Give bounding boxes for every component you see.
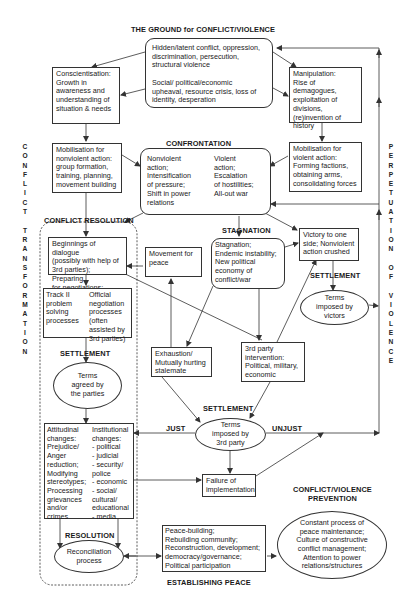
header-settlement-left: SETTLEMENT [60, 349, 110, 358]
node-third-party-intervention: 3rd party intervention: Political, milit… [241, 342, 305, 382]
node-attitudinal: Attitudinal changes: Prejudice/ Anger re… [47, 426, 86, 522]
node-peace-building: Peace-building; Rebuilding community; Re… [162, 525, 266, 572]
node-ground: Hidden/latent conflict, oppression, disc… [145, 38, 273, 108]
header-settlement-center: SETTLEMENT [203, 404, 253, 413]
node-manipulation: Manipulation: Rise of demagogues, exploi… [289, 67, 362, 123]
header-establishing-peace: ESTABLISHING PEACE [167, 578, 251, 587]
header-stagnation: STAGNATION [222, 226, 271, 235]
node-ground-top: Hidden/latent conflict, oppression, disc… [152, 44, 260, 70]
header-prevention: CONFLICT/VIOLENCE PREVENTION [293, 486, 372, 503]
label-unjust: UNJUST [272, 424, 302, 433]
node-victory: Victory to one side; Nonviolent action c… [299, 228, 359, 261]
node-failure-of-implementation: Failure of implementation [202, 474, 256, 497]
node-mobilisation-violent: Mobilisation for violent action: Forming… [289, 142, 362, 192]
node-movement-for-peace: Movement for peace [145, 247, 202, 277]
node-institutional: Institutional changes: - political - jud… [92, 426, 129, 522]
node-terms-agreed: Terms agreed by the parties [53, 362, 122, 409]
header-settlement-right: SETTLEMENT [310, 271, 360, 280]
node-confrontation-nonviolent: Nonviolent action; Intensification of pr… [147, 155, 191, 207]
side-label-conflict-transformation: C O N F L I C T T R A N S F O R M A T I … [20, 142, 30, 356]
node-changes: Attitudinal changes: Prejudice/ Anger re… [44, 423, 134, 519]
side-label-perpetuation-of-violence: P E R P E T U A T I O N O F V I O L E N … [386, 142, 396, 365]
node-confrontation-violent: Violent action; Escalation of hostilitie… [214, 155, 254, 199]
node-exhaustion: Exhaustion/ Mutually hurting stalemate [151, 347, 212, 377]
node-mobilisation-nonviolent: Mobilisation for nonviolent action: grou… [52, 143, 122, 193]
header-ground: THE GROUND for CONFLICT/VIOLENCE [131, 25, 275, 34]
node-ground-bottom: Social/ political/economic upheaval, res… [152, 79, 256, 105]
label-just: JUST [166, 424, 185, 433]
node-confrontation: Nonviolent action; Intensification of pr… [140, 148, 271, 215]
node-stagnation: Stagnation; Endemic instability; New pol… [211, 238, 285, 289]
conflict-transformation-diagram: THE GROUND for CONFLICT/VIOLENCE CONFRON… [0, 0, 408, 613]
node-official-negotiation: Official negotiation processes (often as… [89, 291, 125, 343]
node-reconciliation: Reconciliation process [54, 540, 124, 573]
node-prevention: Constant process of peace maintenance; C… [277, 511, 387, 579]
node-dialogue: Beginnings of dialogue (possibly with he… [48, 237, 127, 275]
node-negotiation-processes: Track II problem solving processes Offic… [43, 288, 132, 338]
node-terms-victors: Terms imposed by victors [300, 290, 369, 325]
node-track-ii: Track II problem solving processes [46, 291, 79, 326]
node-conscientisation: Conscientisation: Growth in awareness an… [52, 67, 120, 124]
header-conflict-resolution: CONFLICT RESOLUTION [44, 216, 134, 225]
node-terms-third-party: Terms imposed by 3rd party [195, 418, 266, 451]
header-resolution: RESOLUTION [65, 531, 114, 540]
header-confrontation: CONFRONTATION [166, 139, 231, 148]
